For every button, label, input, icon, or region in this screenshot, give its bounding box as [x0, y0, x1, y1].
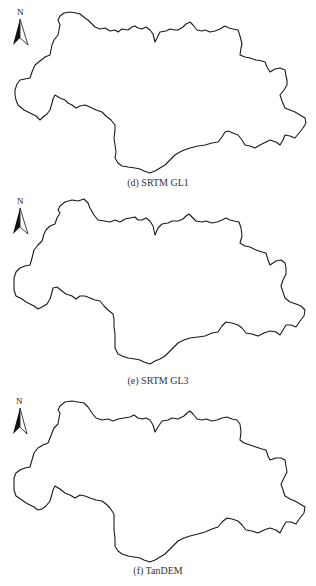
boundary-map-d — [0, 0, 316, 190]
boundary-map-e — [0, 188, 316, 388]
map-panel-f: N (f) TanDEM — [0, 388, 316, 586]
map-panel-e: N (e) SRTM GL3 — [0, 188, 316, 388]
north-arrow-icon — [13, 208, 28, 234]
north-label: N — [17, 196, 24, 206]
boundary-map-f — [0, 388, 316, 586]
region-boundary — [14, 401, 305, 562]
north-label: N — [17, 7, 24, 17]
map-panel-d: N (d) SRTM GL1 — [0, 0, 316, 190]
north-arrow-icon — [13, 19, 28, 45]
north-label: N — [16, 396, 23, 406]
region-boundary — [14, 199, 305, 364]
panel-caption: (f) TanDEM — [0, 565, 316, 576]
panel-caption: (e) SRTM GL3 — [0, 375, 316, 386]
region-boundary — [15, 12, 306, 173]
panel-caption: (d) SRTM GL1 — [0, 177, 316, 188]
north-arrow-icon — [13, 408, 27, 434]
